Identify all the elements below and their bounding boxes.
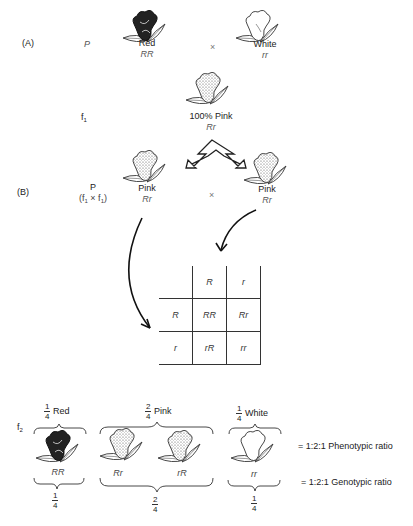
f2-label: f2 bbox=[17, 422, 23, 435]
punnett-row-header: r bbox=[159, 332, 193, 365]
f1-genotype: Rr bbox=[186, 122, 236, 132]
f2-white-fraction-label: 14 White bbox=[236, 404, 268, 423]
panel-a-label: (A) bbox=[22, 38, 34, 48]
parent2-pink-phenotype: Pink bbox=[252, 184, 282, 194]
brace-bottom-pink bbox=[100, 478, 213, 492]
panel-a-generation: P bbox=[84, 39, 90, 49]
parent-white-phenotype: White bbox=[248, 39, 282, 49]
flower-f2-pink-rr-icon bbox=[100, 428, 142, 460]
split-arrow-icon bbox=[186, 140, 246, 168]
parent-red-phenotype: Red bbox=[132, 38, 162, 48]
arrow-left-to-punnett-icon bbox=[129, 218, 150, 328]
f2-white-bottom-fraction: 14 bbox=[251, 494, 257, 513]
flower-f2-red-icon bbox=[36, 430, 78, 462]
punnett-cell: rr bbox=[227, 332, 261, 365]
punnett-cell: RR bbox=[193, 299, 227, 332]
punnett-cell: Rr bbox=[227, 299, 261, 332]
f2-pink-genotype-1: Rr bbox=[108, 468, 128, 478]
genotypic-ratio: = 1:2:1 Genotypic ratio bbox=[301, 477, 392, 487]
phenotypic-ratio: = 1:2:1 Phenotypic ratio bbox=[298, 441, 393, 451]
cross-symbol-a: × bbox=[210, 42, 215, 52]
punnett-col-header: r bbox=[227, 266, 261, 299]
brace-bottom-red bbox=[34, 478, 84, 489]
flower-pink-f1-icon bbox=[186, 72, 228, 104]
f2-red-genotype: RR bbox=[46, 467, 70, 477]
cross-symbol-b: × bbox=[209, 190, 214, 200]
parent2-pink-genotype: Rr bbox=[252, 195, 282, 205]
f2-red-bottom-fraction: 14 bbox=[52, 491, 58, 510]
punnett-square: R r R RR Rr r rR rr bbox=[159, 266, 261, 365]
f2-pink-genotype-2: rR bbox=[172, 468, 192, 478]
punnett-cell: rR bbox=[193, 332, 227, 365]
punnett-col-header: R bbox=[193, 266, 227, 299]
panel-b-generation: P bbox=[80, 182, 106, 192]
punnett-row: R RR Rr bbox=[159, 299, 261, 332]
brace-bottom-white bbox=[228, 480, 280, 491]
f2-pink-fraction-label: 24 Pink bbox=[145, 402, 171, 421]
punnett-row-header: R bbox=[159, 299, 193, 332]
f2-white-genotype: rr bbox=[244, 469, 264, 479]
f2-red-fraction-label: 14 Red bbox=[44, 402, 69, 421]
flower-pink-parent2-icon bbox=[244, 152, 286, 184]
parent-red-genotype: RR bbox=[132, 49, 162, 59]
flower-pink-parent1-icon bbox=[123, 150, 165, 182]
parent1-pink-phenotype: Pink bbox=[132, 183, 162, 193]
f2-pink-bottom-fraction: 24 bbox=[152, 495, 158, 514]
punnett-corner bbox=[159, 266, 193, 299]
panel-b-label: (B) bbox=[17, 187, 29, 197]
punnett-row: r rR rr bbox=[159, 332, 261, 365]
flower-f2-pink-rR-icon bbox=[158, 430, 200, 462]
f1-phenotype: 100% Pink bbox=[186, 111, 236, 121]
parent-white-genotype: rr bbox=[248, 50, 282, 60]
arrow-right-to-punnett-icon bbox=[216, 210, 256, 251]
panel-b-cross-note: (f1 × f1) bbox=[66, 193, 120, 206]
f1-label: f1 bbox=[81, 112, 87, 125]
parent1-pink-genotype: Rr bbox=[132, 194, 162, 204]
flower-white-parent-icon bbox=[236, 10, 278, 42]
flower-f2-white-icon bbox=[231, 430, 273, 462]
